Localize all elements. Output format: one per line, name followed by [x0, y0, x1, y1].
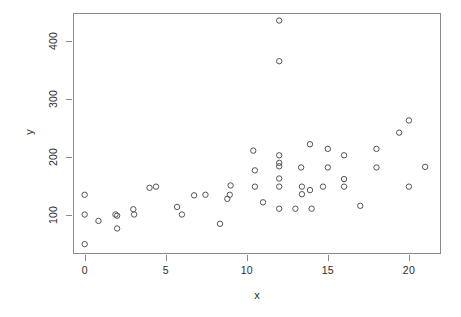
x-axis-tick-label: 15	[322, 264, 334, 276]
y-axis-tick	[66, 157, 72, 158]
y-axis-title: y	[23, 129, 35, 135]
x-axis-tick	[328, 255, 329, 261]
y-axis-tick	[66, 215, 72, 216]
y-axis-tick-label: 200	[47, 148, 59, 166]
x-axis-tick	[247, 255, 248, 261]
y-axis-tick-label: 100	[47, 206, 59, 224]
x-axis-tick	[409, 255, 410, 261]
x-axis-tick	[166, 255, 167, 261]
x-axis-tick-label: 0	[82, 264, 88, 276]
x-axis-tick-label: 5	[163, 264, 169, 276]
plot-panel-border	[73, 13, 441, 254]
y-axis-tick-label: 400	[47, 32, 59, 50]
x-axis-title: x	[254, 289, 260, 301]
y-axis-tick	[66, 41, 72, 42]
scatter-plot-figure: 05101520100200300400 x y	[0, 0, 461, 317]
x-axis-tick-label: 10	[241, 264, 253, 276]
x-axis-tick-label: 20	[403, 264, 415, 276]
x-axis-tick	[85, 255, 86, 261]
y-axis-tick	[66, 99, 72, 100]
y-axis-tick-label: 300	[47, 90, 59, 108]
